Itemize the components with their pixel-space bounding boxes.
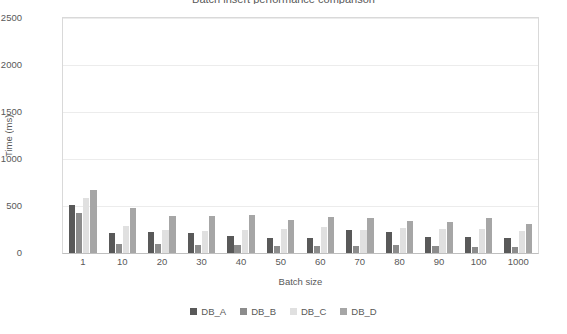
bar-group	[221, 18, 261, 253]
x-tick-label: 50	[261, 256, 301, 267]
bar-DB_C-1[interactable]	[83, 198, 89, 253]
bar-group	[261, 18, 301, 253]
legend-swatch-icon	[290, 308, 297, 315]
bar-group	[459, 18, 499, 253]
legend-swatch-icon	[240, 308, 247, 315]
bar-group	[182, 18, 222, 253]
bar-DB_B-30[interactable]	[195, 245, 201, 253]
bar-DB_D-20[interactable]	[169, 216, 175, 253]
chart-title: Batch insert performance comparison	[0, 0, 567, 4]
bar-DB_C-90[interactable]	[439, 229, 445, 253]
bar-DB_D-50[interactable]	[288, 220, 294, 253]
bar-DB_B-1[interactable]	[76, 213, 82, 253]
legend-label: DB_D	[351, 306, 376, 317]
bar-DB_C-100[interactable]	[479, 229, 485, 253]
bar-DB_A-1[interactable]	[69, 205, 75, 253]
x-tick-label: 1000	[498, 256, 538, 267]
bars-layer	[63, 18, 538, 253]
bar-DB_A-40[interactable]	[227, 236, 233, 253]
legend-label: DB_B	[251, 306, 276, 317]
legend-label: DB_C	[301, 306, 326, 317]
bar-DB_D-30[interactable]	[209, 216, 215, 253]
bar-DB_B-1000[interactable]	[512, 247, 518, 253]
bar-DB_D-40[interactable]	[249, 215, 255, 253]
bar-DB_A-20[interactable]	[148, 232, 154, 253]
bar-DB_A-80[interactable]	[386, 232, 392, 253]
bar-DB_D-80[interactable]	[407, 221, 413, 253]
bar-DB_B-70[interactable]	[353, 246, 359, 253]
x-tick-label: 20	[142, 256, 182, 267]
bar-DB_D-1[interactable]	[90, 190, 96, 253]
bar-DB_C-50[interactable]	[281, 229, 287, 253]
bar-DB_C-60[interactable]	[321, 227, 327, 253]
legend-label: DB_A	[201, 306, 226, 317]
bar-DB_B-50[interactable]	[274, 246, 280, 253]
bar-DB_C-80[interactable]	[400, 228, 406, 253]
bar-DB_B-90[interactable]	[432, 246, 438, 253]
bar-DB_D-90[interactable]	[447, 222, 453, 253]
bar-DB_B-60[interactable]	[314, 246, 320, 253]
legend-item-DB_C[interactable]: DB_C	[290, 306, 326, 317]
x-tick-label: 10	[103, 256, 143, 267]
bar-group	[63, 18, 103, 253]
bar-DB_C-70[interactable]	[360, 230, 366, 253]
bar-DB_C-40[interactable]	[242, 230, 248, 254]
x-tick-label: 100	[459, 256, 499, 267]
bar-DB_B-80[interactable]	[393, 245, 399, 253]
bar-DB_A-50[interactable]	[267, 238, 273, 254]
bar-DB_A-30[interactable]	[188, 233, 194, 253]
legend-item-DB_D[interactable]: DB_D	[340, 306, 376, 317]
bar-DB_C-20[interactable]	[162, 230, 168, 254]
x-tick-label: 1	[63, 256, 103, 267]
legend-item-DB_B[interactable]: DB_B	[240, 306, 276, 317]
bar-DB_A-70[interactable]	[346, 230, 352, 254]
bar-DB_A-100[interactable]	[465, 237, 471, 253]
bar-DB_B-100[interactable]	[472, 247, 478, 253]
legend-swatch-icon	[340, 308, 347, 315]
x-axis-tick-labels: 11020304050607080901001000	[63, 256, 538, 272]
bar-DB_D-10[interactable]	[130, 208, 136, 253]
bar-group	[498, 18, 538, 253]
bar-DB_B-20[interactable]	[155, 244, 161, 253]
bar-group	[419, 18, 459, 253]
bar-DB_B-10[interactable]	[116, 244, 122, 253]
bar-group	[380, 18, 420, 253]
x-tick-label: 70	[340, 256, 380, 267]
bar-DB_A-90[interactable]	[425, 237, 431, 253]
bar-DB_D-100[interactable]	[486, 218, 492, 253]
x-tick-label: 80	[380, 256, 420, 267]
bar-DB_C-1000[interactable]	[519, 231, 525, 253]
bar-DB_B-40[interactable]	[234, 245, 240, 253]
legend-swatch-icon	[190, 308, 197, 315]
bar-chart: Batch insert performance comparison Time…	[0, 0, 567, 334]
bar-DB_D-70[interactable]	[367, 218, 373, 253]
bar-DB_C-10[interactable]	[123, 226, 129, 253]
bar-group	[103, 18, 143, 253]
x-axis-title: Batch size	[62, 276, 539, 287]
x-tick-label: 60	[301, 256, 341, 267]
bar-DB_D-60[interactable]	[328, 217, 334, 253]
bar-group	[301, 18, 341, 253]
bar-DB_A-10[interactable]	[109, 233, 115, 253]
legend-item-DB_A[interactable]: DB_A	[190, 306, 226, 317]
bar-DB_C-30[interactable]	[202, 231, 208, 253]
bar-group	[142, 18, 182, 253]
bar-DB_A-1000[interactable]	[504, 238, 510, 254]
x-tick-label: 30	[182, 256, 222, 267]
bar-DB_D-1000[interactable]	[526, 224, 532, 253]
bar-group	[340, 18, 380, 253]
x-tick-label: 90	[419, 256, 459, 267]
x-tick-label: 40	[221, 256, 261, 267]
chart-legend: DB_ADB_BDB_CDB_D	[0, 306, 567, 317]
bar-DB_A-60[interactable]	[307, 238, 313, 253]
